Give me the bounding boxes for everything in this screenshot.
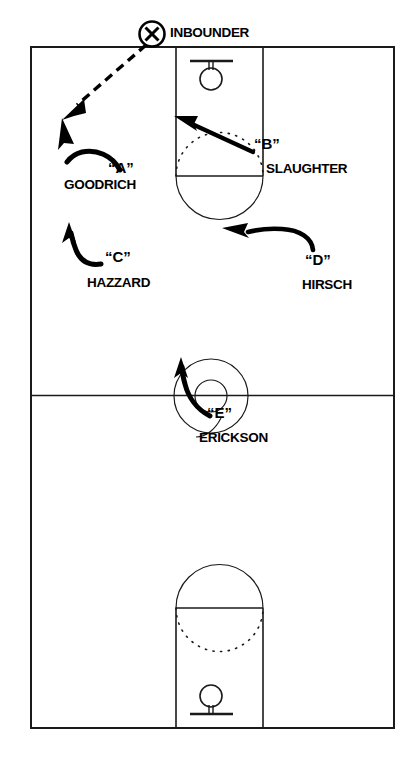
player-e-tag: “E” <box>207 405 232 420</box>
player-d-tag: “D” <box>305 252 331 267</box>
player-a-name: GOODRICH <box>64 178 136 192</box>
inbounder-marker <box>140 22 165 47</box>
inbounder-label: INBOUNDER <box>170 26 249 40</box>
player-c-tag: “C” <box>105 249 131 264</box>
play-diagram: INBOUNDER “A” GOODRICH “B” SLAUGHTER “C”… <box>0 0 419 764</box>
player-b-name: SLAUGHTER <box>266 162 347 176</box>
player-c-name: HAZZARD <box>87 276 150 290</box>
basketball-court-graphic <box>0 0 419 764</box>
player-d-name: HIRSCH <box>302 278 352 292</box>
player-e-name: ERICKSON <box>199 431 268 445</box>
player-b-tag: “B” <box>254 136 280 151</box>
player-a-tag: “A” <box>108 160 134 175</box>
